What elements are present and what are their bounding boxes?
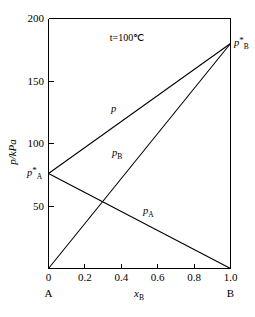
y-tick-labels: 200 150 100 50	[28, 12, 45, 212]
temperature-annotation: t=100℃	[110, 32, 144, 43]
chart-figure: 200 150 100 50 p*A 0 0.2 0.4 0.6 0.8 1.0…	[0, 0, 255, 317]
x-tick-labels: 0 0.2 0.4 0.6 0.8 1.0	[46, 271, 238, 283]
y-tick-label-50: 50	[33, 200, 45, 212]
x-tick-label-0-6: 0.6	[151, 271, 165, 283]
endpoint-label-b: B	[227, 287, 234, 299]
pB-star-subscript: B	[244, 42, 249, 51]
x-tick-label-1-0: 1.0	[224, 271, 238, 283]
x-axis-title: xB	[133, 287, 144, 302]
y-axis-ticks	[49, 19, 54, 207]
curve-label-partial-pressure-a: pA	[142, 205, 154, 219]
point-label-pB-star: p*B	[233, 35, 249, 52]
curve-label-pb-subscript: B	[117, 152, 122, 161]
x-tick-label-0: 0	[46, 271, 52, 283]
line-total-pressure	[49, 44, 231, 174]
x-tick-label-0-4: 0.4	[114, 271, 128, 283]
line-partial-pressure-b	[49, 44, 231, 269]
x-tick-label-0-2: 0.2	[78, 271, 92, 283]
pA-star-subscript: A	[37, 172, 43, 181]
curve-label-p-symbol: p	[110, 103, 116, 114]
data-series-lines	[49, 44, 231, 269]
endpoint-label-a: A	[45, 287, 53, 299]
curve-label-partial-pressure-b: pB	[111, 147, 122, 161]
x-tick-label-0-8: 0.8	[187, 271, 201, 283]
y-axis-title: p/kPa	[6, 139, 18, 166]
y-tick-label-100: 100	[28, 137, 45, 149]
curve-label-total-pressure: p	[110, 103, 116, 114]
x-axis-ticks	[49, 264, 231, 269]
y-tick-label-pA-star: p*A	[26, 165, 43, 182]
x-axis-title-subscript: B	[139, 293, 144, 302]
curve-label-pa-subscript: A	[148, 210, 154, 219]
y-tick-label-200: 200	[28, 12, 45, 24]
y-tick-label-150: 150	[28, 75, 45, 87]
plot-frame	[49, 19, 231, 269]
svg-text:p*A: p*A	[26, 165, 43, 182]
raoult-law-plot: 200 150 100 50 p*A 0 0.2 0.4 0.6 0.8 1.0…	[0, 0, 255, 317]
line-partial-pressure-a	[49, 174, 231, 269]
